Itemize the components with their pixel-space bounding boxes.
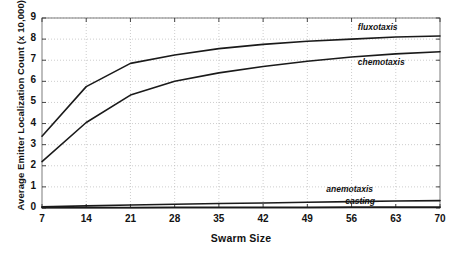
series-label-casting: casting bbox=[345, 196, 375, 206]
y-tick-label: 7 bbox=[20, 53, 36, 64]
x-tick-label: 28 bbox=[160, 213, 190, 224]
series-label-chemotaxis: chemotaxis bbox=[358, 57, 405, 67]
y-tick-label: 0 bbox=[20, 201, 36, 212]
x-axis-title: Swarm Size bbox=[42, 232, 440, 244]
x-tick-label: 56 bbox=[337, 213, 367, 224]
x-tick-label: 7 bbox=[27, 213, 57, 224]
y-tick-label: 1 bbox=[20, 180, 36, 191]
chart-figure: Average Emitter Localization Count (x 10… bbox=[0, 0, 464, 253]
series-label-anemotaxis: anemotaxis bbox=[326, 184, 373, 194]
y-tick-label: 5 bbox=[20, 95, 36, 106]
x-tick-label: 70 bbox=[425, 213, 455, 224]
y-tick-label: 4 bbox=[20, 117, 36, 128]
y-tick-label: 2 bbox=[20, 159, 36, 170]
x-tick-label: 21 bbox=[115, 213, 145, 224]
x-tick-label: 49 bbox=[292, 213, 322, 224]
y-tick-label: 6 bbox=[20, 74, 36, 85]
x-tick-label: 63 bbox=[381, 213, 411, 224]
y-tick-label: 3 bbox=[20, 138, 36, 149]
x-tick-label: 42 bbox=[248, 213, 278, 224]
x-tick-label: 14 bbox=[71, 213, 101, 224]
series-label-fluxotaxis: fluxotaxis bbox=[358, 22, 398, 32]
y-tick-label: 9 bbox=[20, 11, 36, 22]
x-tick-label: 35 bbox=[204, 213, 234, 224]
y-tick-label: 8 bbox=[20, 32, 36, 43]
